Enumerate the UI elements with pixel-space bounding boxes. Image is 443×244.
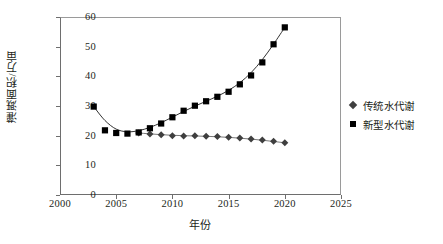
x-tick-mark (341, 195, 342, 199)
legend-label-new: 新型水代谢 (363, 117, 415, 132)
y-tick-label: 30 (56, 101, 96, 112)
x-tick-mark (116, 195, 117, 199)
y-axis-title: 灌溉面积/万亩 (6, 50, 22, 123)
y-tick-label: 40 (56, 71, 96, 82)
x-tick-label: 2005 (86, 198, 146, 209)
y-tick-mark (56, 195, 60, 196)
y-tick-mark (56, 106, 60, 107)
y-tick-mark (56, 47, 60, 48)
y-tick-label: 50 (56, 42, 96, 53)
x-tick-label: 2020 (255, 198, 315, 209)
x-tick-label: 2025 (311, 198, 371, 209)
chart-figure: 灌溉面积/万亩 年份 01020304050602000200520102015… (0, 0, 443, 244)
x-tick-mark (172, 195, 173, 199)
legend-item-traditional: 传统水代谢 (346, 97, 443, 113)
x-axis-title: 年份 (60, 216, 341, 232)
y-tick-label: 10 (56, 160, 96, 171)
y-tick-label: 20 (56, 131, 96, 142)
x-tick-label: 2000 (30, 198, 90, 209)
y-tick-mark (56, 136, 60, 137)
chart-legend: 传统水代谢 新型水代谢 (346, 97, 443, 135)
legend-item-new: 新型水代谢 (346, 116, 443, 132)
x-tick-label: 2015 (199, 198, 259, 209)
y-tick-mark (56, 165, 60, 166)
legend-label-traditional: 传统水代谢 (363, 98, 415, 113)
y-tick-mark (56, 17, 60, 18)
x-tick-mark (229, 195, 230, 199)
plot-area (60, 17, 341, 195)
y-tick-mark (56, 76, 60, 77)
diamond-marker-icon (346, 102, 360, 108)
square-marker-icon (346, 121, 360, 128)
y-tick-label: 60 (56, 12, 96, 23)
x-tick-label: 2010 (142, 198, 202, 209)
x-tick-mark (285, 195, 286, 199)
